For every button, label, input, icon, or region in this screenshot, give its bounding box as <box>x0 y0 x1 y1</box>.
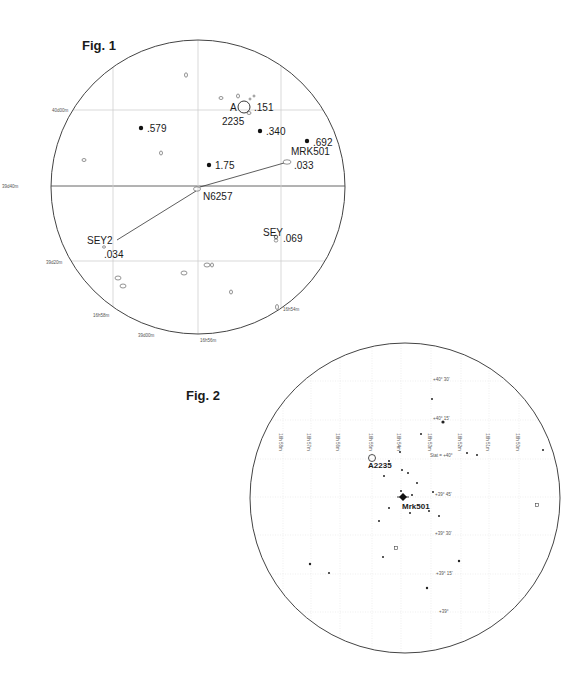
ra-axis-label: 16h 54m <box>396 433 401 451</box>
dec-axis-label: +39° 45' <box>435 492 452 497</box>
star-point <box>542 449 544 451</box>
star-point <box>383 475 385 477</box>
star-point <box>409 512 411 514</box>
star-point <box>388 507 390 509</box>
star-point <box>382 556 384 558</box>
ra-axis-label: 16h 53m <box>427 433 432 451</box>
star-point <box>378 520 380 522</box>
star-point <box>407 472 409 474</box>
dec-axis-label: +39° <box>439 609 449 614</box>
ra-axis-label: 16h 57m <box>306 433 311 451</box>
ra-axis-label: 16h 56m <box>335 433 340 451</box>
star-point <box>458 560 460 562</box>
star-point <box>400 490 402 492</box>
mrk501-label: Mrk501 <box>402 502 430 511</box>
ra-axis-label: 16h 51m <box>485 433 490 451</box>
star-point <box>411 494 413 496</box>
star-point <box>432 491 434 493</box>
star-point <box>431 398 433 400</box>
dec-axis-label: +40° 15' <box>433 416 450 421</box>
dec-axis-label: +40° 30' <box>433 377 450 382</box>
star-point <box>476 454 478 456</box>
square-marker <box>395 547 398 550</box>
star-point <box>426 587 428 589</box>
a2235-label: A2235 <box>368 461 392 470</box>
star-point <box>399 451 401 453</box>
star-point <box>401 469 403 471</box>
star-point <box>438 515 440 517</box>
dec-axis-label: +39° 15' <box>436 571 453 576</box>
ra-axis-label: 16h 58m <box>278 433 283 451</box>
star-point <box>420 433 422 435</box>
fig2-sky-chart: 16h 58m16h 57m16h 56m16h 55m16h 54m16h 5… <box>0 0 579 676</box>
star-point <box>416 482 418 484</box>
star-point <box>441 420 444 423</box>
star-point <box>309 563 311 565</box>
ra-axis-label: 16h 50m <box>515 433 520 451</box>
ra-axis-label: 16h 52m <box>457 433 462 451</box>
dec-axis-label: +39° 30' <box>435 531 452 536</box>
dec-axis-label: Stat = +40° <box>430 453 453 458</box>
star-point <box>466 452 468 454</box>
ra-axis-label: 16h 55m <box>368 433 373 451</box>
star-point <box>328 572 330 574</box>
square-marker <box>536 504 539 507</box>
